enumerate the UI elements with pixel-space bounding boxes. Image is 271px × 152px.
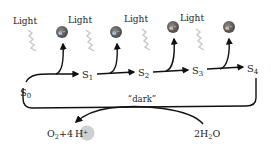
light-label-3: Light [124, 14, 148, 24]
electron-icon: e⁻ [223, 21, 235, 33]
light-label-4: Light [180, 13, 204, 23]
state-s0: S0 [20, 87, 31, 100]
arrow-s2-s3 [153, 70, 188, 72]
svg-text:e⁻: e⁻ [112, 29, 119, 37]
arrow-s3-s4 [207, 67, 243, 69]
water-oxidation-arrow [76, 107, 203, 124]
state-s2: S2 [138, 67, 149, 80]
electron-release-arrow [166, 39, 174, 71]
products-label: O2+4H+ [47, 128, 88, 141]
products: O2+4H+ [47, 126, 95, 142]
light-wave-icon [142, 29, 150, 50]
electron-icon: e⁻ [110, 26, 122, 38]
s-state-cycle-diagram: Light Light Light Light e⁻ e⁻ e⁻ e⁻ [0, 0, 271, 152]
electron-icon: e⁻ [56, 26, 68, 38]
svg-text:e⁻: e⁻ [225, 24, 232, 32]
state-s1: S1 [82, 69, 93, 82]
arrow-s0-s1 [26, 74, 78, 82]
light-wave-icon [28, 30, 36, 51]
electron-release-arrow [110, 44, 117, 73]
dark-label: “dark” [128, 94, 156, 104]
svg-text:e⁻: e⁻ [58, 29, 65, 37]
light-wave-icon [86, 30, 94, 51]
light-wave-icon [196, 29, 204, 50]
light-label-2: Light [68, 15, 92, 25]
arrow-s1-s2 [97, 72, 134, 74]
water-label: 2H2O [194, 128, 220, 141]
electron-release-arrow [220, 39, 229, 69]
state-s4: S4 [247, 63, 259, 76]
light-label-1: Light [13, 16, 37, 26]
transition-arrows [26, 39, 243, 82]
svg-text:e⁻: e⁻ [169, 24, 176, 32]
electron-release-arrow [56, 44, 63, 74]
state-s3: S3 [192, 65, 203, 78]
electron-icon: e⁻ [167, 21, 179, 33]
